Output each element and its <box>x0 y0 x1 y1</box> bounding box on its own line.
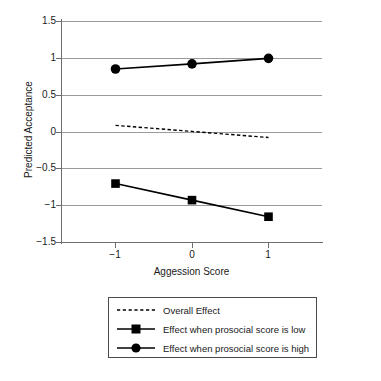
x-tick-label-1: 1 <box>253 250 283 260</box>
y-tick-label-1: 1 <box>50 53 56 63</box>
data-point-prosocial-high-0 <box>111 64 121 74</box>
x-tick-label-0: 0 <box>177 250 207 260</box>
gridline-1 <box>61 58 322 59</box>
y-tick-label-neg1: −1 <box>45 200 56 210</box>
gridline-0 <box>61 132 322 133</box>
y-tick-mark-neg0.5 <box>56 168 61 169</box>
y-tick-label-1.5: 1.5 <box>42 16 56 26</box>
y-axis-title: Predicted Acceptance <box>23 50 34 210</box>
legend-label-prosocial-low: Effect when prosocial score is low <box>163 324 305 335</box>
data-point-prosocial-low-1 <box>188 196 197 205</box>
y-tick-label-0.5: 0.5 <box>42 90 56 100</box>
y-tick-mark-0 <box>56 132 61 133</box>
series-line-prosocial-high <box>116 58 269 69</box>
y-tick-mark-neg1 <box>56 205 61 206</box>
legend-item-prosocial-low: Effect when prosocial score is low <box>109 320 316 338</box>
square-marker-line-icon <box>116 321 156 337</box>
legend-item-prosocial-high: Effect when prosocial score is high <box>109 339 316 357</box>
chart-legend: Overall Effect Effect when prosocial sco… <box>108 297 317 358</box>
gridline-neg0.5 <box>61 168 322 169</box>
y-axis-spine <box>61 19 62 244</box>
legend-label-prosocial-high: Effect when prosocial score is high <box>163 343 309 354</box>
series-prosocial-high <box>111 54 274 74</box>
series-line-prosocial-low <box>116 184 269 217</box>
x-tick-mark-1 <box>268 243 269 248</box>
y-tick-mark-1.5 <box>56 21 61 22</box>
x-tick-mark-0 <box>192 243 193 248</box>
series-prosocial-low <box>111 179 273 221</box>
x-axis-title: Aggession Score <box>61 266 322 277</box>
circle-marker-line-icon <box>116 340 156 356</box>
y-tick-label-neg0.5: −0.5 <box>36 163 56 173</box>
dashed-line-icon <box>116 302 156 318</box>
gridline-1.5 <box>61 21 322 22</box>
data-point-prosocial-high-1 <box>187 59 197 69</box>
legend-label-overall-effect: Overall Effect <box>163 305 220 316</box>
gridline-0.5 <box>61 95 322 96</box>
legend-item-overall-effect: Overall Effect <box>109 301 316 319</box>
gridline-neg1 <box>61 205 322 206</box>
data-point-prosocial-low-0 <box>111 179 120 188</box>
chart-figure: 1.5 1 0.5 0 −0.5 −1 −1.5 −1 0 1 Aggessio… <box>0 0 381 381</box>
x-tick-label-neg1: −1 <box>100 250 130 260</box>
y-tick-mark-neg1.5 <box>56 242 61 243</box>
y-tick-mark-0.5 <box>56 95 61 96</box>
y-tick-label-neg1.5: −1.5 <box>36 237 56 247</box>
data-point-prosocial-low-2 <box>264 212 273 221</box>
x-tick-mark-neg1 <box>115 243 116 248</box>
y-tick-mark-1 <box>56 58 61 59</box>
y-tick-label-0: 0 <box>50 127 56 137</box>
